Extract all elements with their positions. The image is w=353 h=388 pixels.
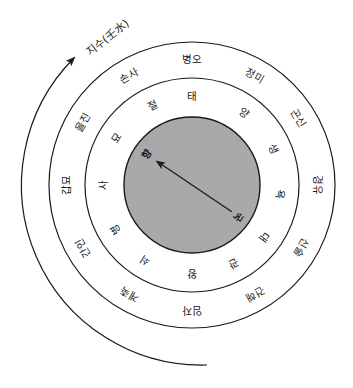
middle-ring-label: 묘 bbox=[109, 130, 124, 145]
outer-ring-label: 정미 bbox=[243, 66, 266, 86]
twelve-stage-wheel-diagram: 지수(壬水) 병오정미곤신경유신술건해임자계축간인갑묘을진손사 태양생욕대관왕쇠… bbox=[0, 0, 353, 388]
middle-ring-label: 왕 bbox=[187, 268, 197, 280]
middle-ring-label: 양 bbox=[237, 105, 252, 121]
outer-ring-label: 곤신 bbox=[288, 107, 309, 130]
outer-ring-label: 병오 bbox=[182, 53, 202, 65]
middle-ring-label: 관 bbox=[227, 256, 241, 271]
middle-ring-label: 병 bbox=[107, 222, 122, 237]
middle-ring-label: 절 bbox=[146, 97, 160, 112]
middle-ring-label: 쇠 bbox=[137, 253, 152, 268]
middle-ring-label: 대 bbox=[256, 230, 272, 245]
flow-arrow-label: 지수(壬水) bbox=[84, 17, 132, 58]
middle-ring-label: 태 bbox=[187, 90, 197, 102]
outer-ring-label: 건해 bbox=[243, 284, 266, 304]
outer-ring-label: 손사 bbox=[117, 66, 140, 86]
middle-ring-label: 욕 bbox=[274, 189, 287, 200]
outer-ring-label: 을진 bbox=[73, 110, 93, 133]
middle-ring-label: 생 bbox=[266, 142, 281, 156]
outer-ring-label: 계축 bbox=[117, 284, 140, 304]
outer-ring-label: 경유 bbox=[312, 175, 324, 195]
outer-ring-label: 갑묘 bbox=[60, 175, 72, 195]
outer-ring-label: 신술 bbox=[291, 236, 311, 259]
outer-ring-label: 임자 bbox=[182, 305, 202, 317]
outer-ring-label: 간인 bbox=[73, 236, 93, 259]
diagram-stage: 지수(壬水) 병오정미곤신경유신술건해임자계축간인갑묘을진손사 태양생욕대관왕쇠… bbox=[0, 0, 353, 388]
middle-ring-label: 사 bbox=[97, 180, 109, 190]
